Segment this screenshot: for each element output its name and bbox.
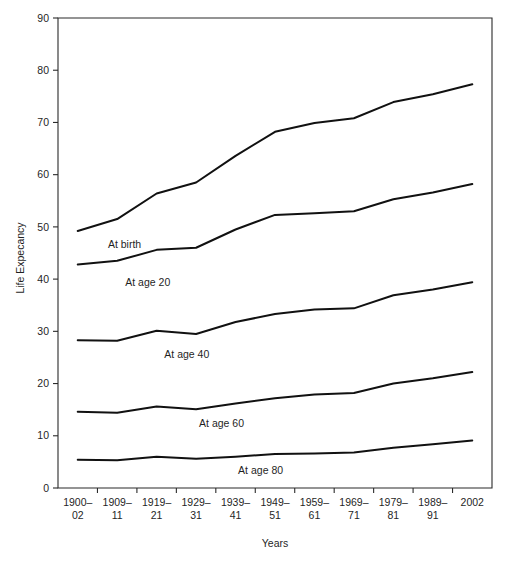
y-tick-label-60: 60 (37, 168, 49, 180)
series-line-at-age-60 (78, 372, 473, 413)
y-tick-label-0: 0 (43, 482, 49, 494)
chart-canvas: 0102030405060708090 1900–021909–111919–2… (0, 0, 512, 561)
y-tick-label-50: 50 (37, 221, 49, 233)
x-tick-label: 1969–71 (339, 496, 368, 521)
x-tick-label: 1909–11 (103, 496, 132, 521)
series-line-at-age-80 (78, 440, 473, 460)
x-axis-ticks (97, 488, 452, 493)
series-lines-group (78, 84, 473, 460)
series-label-at-age-60: At age 60 (199, 417, 244, 429)
series-line-at-age-40 (78, 282, 473, 340)
plot-frame (58, 18, 492, 488)
life-expectancy-chart: 0102030405060708090 1900–021909–111919–2… (0, 0, 512, 561)
x-tick-label: 1919–21 (142, 496, 171, 521)
y-tick-label-70: 70 (37, 116, 49, 128)
y-tick-label-80: 80 (37, 64, 49, 76)
series-inline-labels-group: At birthAt age 20At age 40At age 60At ag… (108, 238, 283, 477)
series-label-at-age-40: At age 40 (164, 348, 209, 360)
y-tick-label-90: 90 (37, 12, 49, 24)
y-tick-label-10: 10 (37, 429, 49, 441)
y-tick-label-20: 20 (37, 377, 49, 389)
x-tick-label: 1939–41 (221, 496, 250, 521)
y-tick-label-40: 40 (37, 273, 49, 285)
series-label-at-age-80: At age 80 (238, 464, 283, 476)
y-tick-label-30: 30 (37, 325, 49, 337)
series-label-at-birth: At birth (108, 238, 141, 250)
x-tick-label: 1959–61 (300, 496, 329, 521)
x-tick-label: 1989–91 (418, 496, 447, 521)
y-axis-title: Life Expecancy (14, 222, 26, 294)
series-label-at-age-20: At age 20 (125, 276, 170, 288)
x-tick-label: 1929–31 (181, 496, 210, 521)
x-tick-label: 1949–51 (260, 496, 289, 521)
x-axis-title: Years (262, 537, 288, 549)
y-axis-ticks (53, 18, 58, 488)
x-tick-label: 1979–81 (379, 496, 408, 521)
plot-border (58, 18, 492, 488)
x-tick-label: 2002 (461, 496, 485, 508)
x-tick-label: 1900–02 (63, 496, 92, 521)
series-line-at-age-20 (78, 184, 473, 264)
x-axis-tick-labels: 1900–021909–111919–211929–311939–411949–… (63, 496, 484, 521)
series-line-at-birth (78, 84, 473, 231)
y-axis-tick-labels: 0102030405060708090 (37, 12, 49, 494)
